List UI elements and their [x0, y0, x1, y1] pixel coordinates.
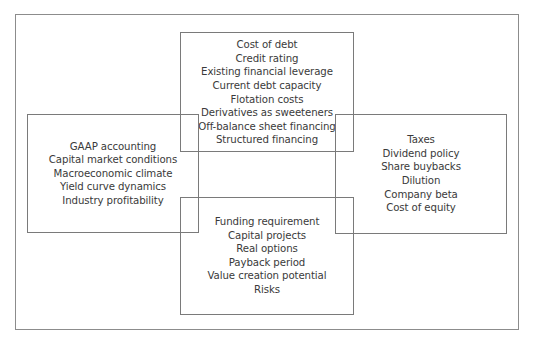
list-item: Funding requirement — [208, 215, 327, 229]
list-item: Off-balance sheet financing — [198, 120, 335, 134]
list-item: Cost of debt — [198, 38, 335, 52]
list-item: Value creation potential — [208, 269, 327, 283]
list-item: GAAP accounting — [49, 140, 177, 154]
list-item: Flotation costs — [198, 93, 335, 107]
list-item: Capital market conditions — [49, 153, 177, 167]
list-item: Yield curve dynamics — [49, 180, 177, 194]
debt-factors-list: Cost of debt Credit rating Existing fina… — [198, 38, 335, 147]
equity-factors-box: Taxes Dividend policy Share buybacks Dil… — [335, 114, 507, 234]
list-item: Cost of equity — [381, 201, 461, 215]
list-item: Dividend policy — [381, 147, 461, 161]
investment-factors-box: Funding requirement Capital projects Rea… — [180, 197, 354, 315]
list-item: Share buybacks — [381, 160, 461, 174]
list-item: Real options — [208, 242, 327, 256]
list-item: Company beta — [381, 188, 461, 202]
list-item: Macroeconomic climate — [49, 167, 177, 181]
list-item: Derivatives as sweeteners — [198, 106, 335, 120]
equity-factors-list: Taxes Dividend policy Share buybacks Dil… — [381, 133, 461, 215]
debt-factors-box: Cost of debt Credit rating Existing fina… — [180, 32, 354, 152]
list-item: Industry profitability — [49, 194, 177, 208]
list-item: Payback period — [208, 256, 327, 270]
external-factors-list: GAAP accounting Capital market condition… — [49, 140, 177, 208]
list-item: Capital projects — [208, 229, 327, 243]
external-factors-box: GAAP accounting Capital market condition… — [27, 114, 199, 233]
list-item: Credit rating — [198, 52, 335, 66]
list-item: Existing financial leverage — [198, 65, 335, 79]
investment-factors-list: Funding requirement Capital projects Rea… — [208, 215, 327, 297]
list-item: Structured financing — [198, 133, 335, 147]
list-item: Dilution — [381, 174, 461, 188]
list-item: Taxes — [381, 133, 461, 147]
list-item: Risks — [208, 283, 327, 297]
list-item: Current debt capacity — [198, 79, 335, 93]
